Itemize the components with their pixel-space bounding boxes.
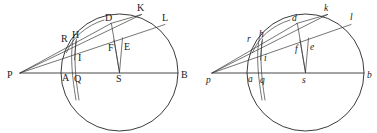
right-point-label-h: h [259,29,264,39]
left-point-label-I: I [78,52,81,63]
geometry-figure: P R H I A Q D F E S K L B [0,0,377,133]
left-segment-SF-radius [114,40,120,73]
right-point-label-b: b [367,70,372,80]
left-point-label-L: L [162,12,168,23]
right-segment-se-segment [306,38,309,73]
right-point-label-l: l [350,12,353,22]
right-point-label-i: i [264,53,267,63]
right-point-label-p: p [205,75,211,85]
left-point-label-P: P [7,69,13,80]
right-segment-sf-radius [300,40,306,73]
left-point-label-F: F [108,42,114,53]
right-point-label-f: f [295,44,299,54]
right-point-label-s: s [302,75,306,85]
right-point-label-k: k [324,3,329,13]
left-point-label-B: B [181,69,188,80]
right-point-label-d: d [292,13,297,23]
left-segment-SE-segment [120,38,123,73]
right-point-label-e: e [310,42,314,52]
left-point-label-A: A [62,72,70,83]
diagram-canvas: P R H I A Q D F E S K L B [0,0,377,133]
right-panel: p r h i a q d f e s k l b [205,3,372,131]
left-point-label-D: D [105,12,112,23]
left-segment-PD-secant [20,24,111,74]
left-segment-PL-secant [20,25,165,74]
right-point-label-q: q [260,75,265,85]
left-point-label-R: R [61,33,68,44]
right-point-label-a: a [248,74,253,84]
right-point-label-r: r [247,34,251,44]
left-point-label-K: K [137,2,145,13]
left-point-label-E: E [124,41,130,52]
left-panel: P R H I A Q D F E S K L B [7,2,188,131]
left-point-label-Q: Q [74,73,82,84]
left-point-label-S: S [116,73,122,84]
left-point-label-H: H [72,29,79,40]
right-segment-pl-secant [212,25,351,74]
